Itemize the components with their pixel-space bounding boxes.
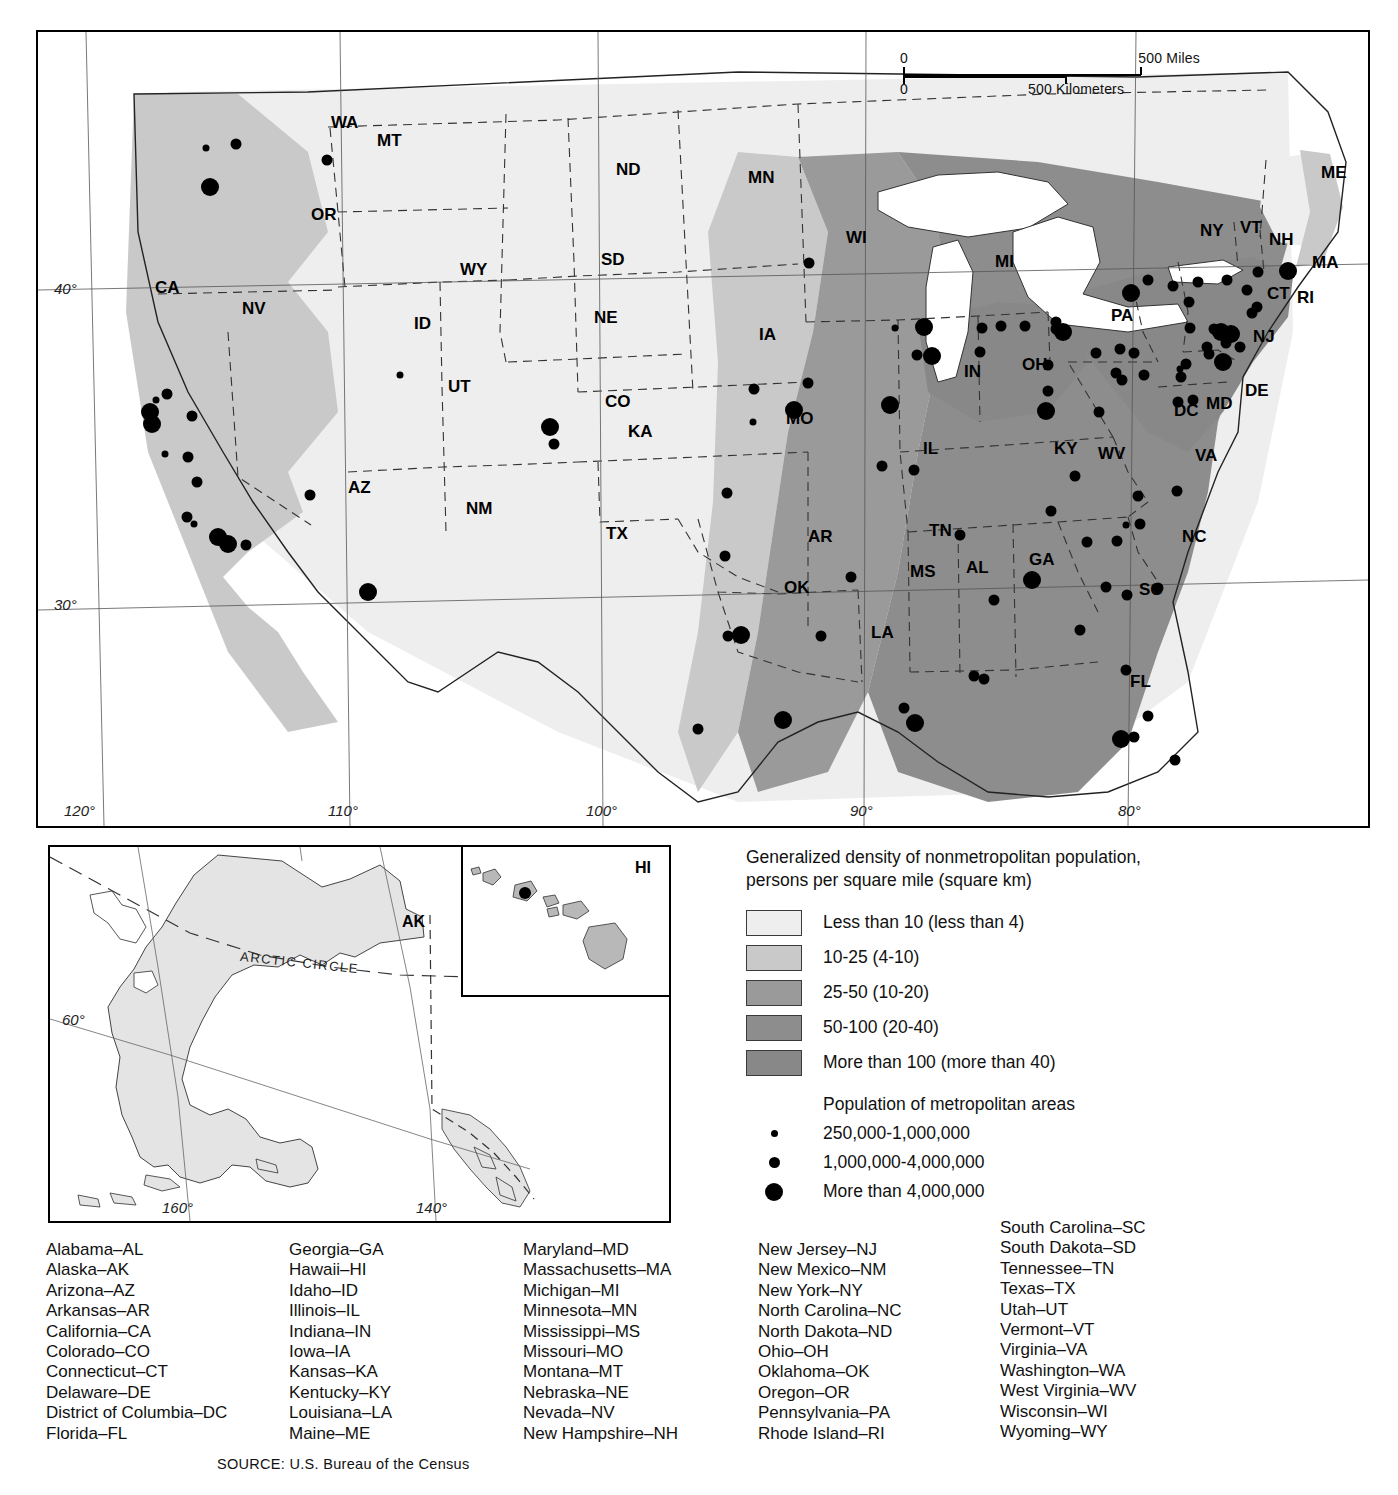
state-label-ri: RI	[1297, 288, 1314, 307]
metro-dot	[1123, 522, 1130, 529]
abbrev-entry: Minnesota–MN	[523, 1301, 678, 1321]
metro-dot	[1193, 277, 1204, 288]
metro-dot-small-icon	[771, 1130, 778, 1137]
legend-label-50-100: 50-100 (20-40)	[823, 1017, 939, 1038]
metro-dot	[1135, 519, 1146, 530]
state-label-ca: CA	[155, 278, 180, 297]
metro-dot	[1054, 323, 1072, 341]
legend-row-metro-0: 250,000-1,000,000	[746, 1119, 1306, 1148]
abbrev-entry: Ohio–OH	[758, 1342, 902, 1362]
honolulu-metro-dot	[519, 887, 531, 899]
metro-dot	[1184, 297, 1195, 308]
legend-swatch-25-50	[746, 980, 802, 1006]
abbrev-entry: Iowa–IA	[289, 1342, 392, 1362]
state-label-mi: MI	[995, 252, 1014, 271]
abbrev-entry: Utah–UT	[1000, 1300, 1146, 1320]
metro-dot	[749, 384, 760, 395]
state-label-sd: SD	[601, 250, 625, 269]
legend-row-metro-2: More than 4,000,000	[746, 1177, 1306, 1206]
abbrev-entry: West Virginia–WV	[1000, 1381, 1146, 1401]
state-label-nh: NH	[1269, 230, 1294, 249]
metro-dot	[1020, 321, 1031, 332]
state-label-az: AZ	[348, 478, 371, 497]
metro-dot	[1043, 360, 1054, 371]
metro-dot	[1204, 349, 1215, 360]
metro-dot-medium-icon	[769, 1157, 780, 1168]
state-label-mn: MN	[748, 168, 774, 187]
inset-map-hawaii[interactable]: HI	[461, 845, 671, 997]
state-label-de: DE	[1245, 381, 1269, 400]
metro-dot	[732, 626, 750, 644]
abbrev-entry: North Dakota–ND	[758, 1322, 902, 1342]
legend-row-metro-1: 1,000,000-4,000,000	[746, 1148, 1306, 1177]
abbrev-entry: Maryland–MD	[523, 1240, 678, 1260]
metro-dot	[892, 325, 899, 332]
metro-dot	[1222, 275, 1233, 286]
metro-dot	[153, 397, 160, 404]
state-label-nj: NJ	[1253, 327, 1275, 346]
abbrev-entry: Kentucky–KY	[289, 1383, 392, 1403]
state-label-ok: OK	[784, 578, 810, 597]
metro-dot	[1043, 386, 1054, 397]
legend-row-density-1: 10-25 (4-10)	[746, 940, 1306, 975]
metro-dot	[1235, 342, 1246, 353]
metro-dot	[1070, 471, 1081, 482]
abbrev-entry: New Mexico–NM	[758, 1260, 902, 1280]
state-label-nc: NC	[1182, 527, 1207, 546]
source-note: SOURCE: U.S. Bureau of the Census	[217, 1456, 469, 1472]
state-label-ar: AR	[808, 527, 833, 546]
abbrev-entry: Georgia–GA	[289, 1240, 392, 1260]
metro-dot	[899, 703, 910, 714]
metro-dot	[1279, 262, 1297, 280]
state-label-wa: WA	[331, 113, 358, 132]
metro-dot	[785, 401, 803, 419]
state-label-pa: PA	[1111, 306, 1133, 325]
state-label-fl: FL	[1130, 672, 1151, 691]
metro-dot	[143, 415, 161, 433]
metro-dot	[1170, 755, 1181, 766]
metro-dot	[1168, 281, 1179, 292]
alaska-lon-160-label: 160°	[162, 1199, 193, 1216]
main-map-conus[interactable]: 40° 30° 120° 110° 100° 90° 80° WAMTNDMNO…	[36, 30, 1370, 828]
metro-dot	[975, 347, 986, 358]
abbrev-entry: Michigan–MI	[523, 1281, 678, 1301]
abbrev-entry: Missouri–MO	[523, 1342, 678, 1362]
state-label-ky: KY	[1054, 439, 1078, 458]
metro-dot	[1188, 395, 1199, 406]
scale-miles-max: 500 Miles	[1138, 50, 1200, 66]
abbrev-entry: South Dakota–SD	[1000, 1238, 1146, 1258]
metro-dot	[1139, 370, 1150, 381]
abbrev-entry: Wyoming–WY	[1000, 1422, 1146, 1442]
metro-dot	[359, 583, 377, 601]
metro-dot	[541, 418, 559, 436]
state-label-nd: ND	[616, 160, 641, 179]
abbrev-entry: Hawaii–HI	[289, 1260, 392, 1280]
legend-label-10-25: 10-25 (4-10)	[823, 947, 919, 968]
abbrev-entry: California–CA	[46, 1322, 227, 1342]
state-label-ga: GA	[1029, 550, 1055, 569]
metro-dot	[201, 178, 219, 196]
metro-dot	[187, 411, 198, 422]
abbrev-entry: North Carolina–NC	[758, 1301, 902, 1321]
legend-row-density-4: More than 100 (more than 40)	[746, 1045, 1306, 1080]
metro-dot	[750, 419, 757, 426]
metro-dot	[1242, 285, 1253, 296]
abbrev-entry: Virginia–VA	[1000, 1340, 1146, 1360]
metro-dot	[1091, 348, 1102, 359]
abbrev-column-3: Maryland–MDMassachusetts–MAMichigan–MIMi…	[523, 1240, 678, 1444]
metro-dot	[979, 674, 990, 685]
abbrev-entry: Louisiana–LA	[289, 1403, 392, 1423]
state-label-ma: MA	[1312, 253, 1338, 272]
state-label-al: AL	[966, 558, 989, 577]
metro-dot	[1117, 375, 1128, 386]
metro-dot	[996, 321, 1007, 332]
abbrev-entry: Oklahoma–OK	[758, 1362, 902, 1382]
metro-dot	[1122, 590, 1133, 601]
metro-dot	[1214, 353, 1232, 371]
metro-dot	[1172, 486, 1183, 497]
metro-dot	[203, 145, 210, 152]
metro-dot	[1247, 308, 1258, 319]
svg-text:110°: 110°	[328, 802, 358, 819]
metro-dot-large-icon	[765, 1183, 783, 1201]
abbrev-entry: Massachusetts–MA	[523, 1260, 678, 1280]
